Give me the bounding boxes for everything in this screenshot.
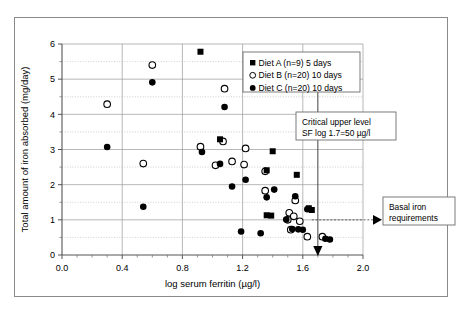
- legend-label: Diet B (n=20) 10 days: [259, 70, 342, 80]
- y-tick-label: 4: [50, 110, 55, 120]
- data-point-filled-circle: [238, 228, 245, 235]
- x-tick-label: 0.8: [176, 263, 189, 273]
- data-point-open-circle: [262, 187, 269, 194]
- data-point-open-circle: [290, 213, 297, 220]
- data-point-open-circle: [229, 158, 236, 165]
- data-point-open-circle: [149, 62, 156, 69]
- data-point-filled-circle: [229, 183, 236, 190]
- critical-upper-level-callout-text: Critical upper level: [302, 117, 371, 127]
- data-point-open-circle: [241, 161, 248, 168]
- data-point-square: [264, 167, 270, 173]
- y-tick-label: 2: [50, 180, 55, 190]
- x-tick-label: 0.4: [116, 263, 129, 273]
- data-point-filled-circle: [257, 230, 264, 237]
- data-point-filled-circle: [271, 186, 278, 193]
- data-point-open-circle: [221, 85, 228, 92]
- data-point-filled-circle: [263, 194, 270, 201]
- y-tick-label: 6: [50, 39, 55, 49]
- figure-container: 01234560.00.40.81.21.62.0log serum ferri…: [0, 0, 462, 316]
- data-point-filled-circle: [217, 161, 224, 168]
- data-point-square: [264, 212, 270, 218]
- critical-upper-level-callout-text: SF log 1.7=50 µg/l: [302, 128, 371, 138]
- x-tick-label: 1.6: [297, 263, 310, 273]
- x-tick-label: 1.2: [236, 263, 249, 273]
- y-tick-label: 3: [50, 145, 55, 155]
- legend-marker-square: [250, 60, 255, 65]
- data-point-square: [294, 172, 300, 178]
- data-point-open-circle: [140, 160, 147, 167]
- data-point-square: [197, 49, 203, 55]
- data-point-filled-circle: [289, 226, 296, 233]
- data-point-filled-circle: [242, 176, 249, 183]
- data-point-filled-circle: [140, 204, 147, 211]
- chart-area: 01234560.00.40.81.21.62.0log serum ferri…: [0, 0, 462, 316]
- basal-iron-requirements-callout-text: Basal iron: [389, 202, 427, 212]
- data-point-filled-circle: [149, 79, 156, 86]
- legend-label: Diet C (n=20) 10 days: [259, 83, 343, 93]
- y-tick-label: 1: [50, 215, 55, 225]
- data-point-square: [270, 148, 276, 154]
- data-point-open-circle: [242, 145, 249, 152]
- data-point-open-circle: [304, 233, 311, 240]
- y-axis-label: Total amount of iron absorbed (mg/day): [19, 67, 30, 233]
- legend-marker-open-circle: [250, 72, 256, 78]
- data-point-filled-circle: [104, 144, 111, 151]
- right-triangle-icon: [373, 215, 382, 225]
- data-point-filled-circle: [327, 236, 334, 243]
- x-axis-label: log serum ferritin (µg/l): [165, 278, 260, 289]
- data-point-open-circle: [296, 218, 303, 225]
- x-tick-label: 2.0: [357, 263, 370, 273]
- y-tick-label: 5: [50, 74, 55, 84]
- scatter-plot: 01234560.00.40.81.21.62.0log serum ferri…: [0, 0, 462, 316]
- legend-label: Diet A (n=9) 5 days: [259, 58, 332, 68]
- data-point-filled-circle: [199, 149, 206, 156]
- basal-iron-requirements-callout-text: requirements: [389, 213, 438, 223]
- y-tick-label: 0: [50, 250, 55, 260]
- data-point-open-circle: [104, 101, 111, 108]
- data-point-filled-circle: [283, 216, 290, 223]
- x-tick-label: 0.0: [56, 263, 69, 273]
- data-point-filled-circle: [292, 193, 299, 200]
- data-point-square: [309, 207, 315, 213]
- data-point-square: [217, 136, 223, 142]
- data-point-filled-circle: [221, 104, 228, 111]
- data-point-filled-circle: [300, 226, 307, 233]
- legend-marker-filled-circle: [250, 85, 256, 91]
